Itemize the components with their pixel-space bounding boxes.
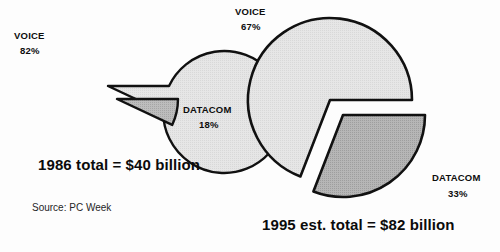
pie-1995-voice-label: VOICE — [235, 6, 266, 17]
pie-1995-caption: 1995 est. total = $82 billion — [262, 216, 455, 233]
figure-canvas: VOICE 82% DATACOM 18% 1986 total = $40 b… — [0, 0, 500, 252]
pie-1986-voice-value: 82% — [20, 45, 40, 56]
pie-1986-slice-datacom — [117, 99, 178, 125]
pie-1986-datacom-value: 18% — [199, 119, 219, 130]
pie-1986-caption: 1986 total = $40 billion — [38, 156, 200, 173]
pie-1995-group — [248, 18, 425, 197]
pie-1986-datacom-label: DATACOM — [183, 104, 232, 115]
pie-1995-slice-datacom — [313, 115, 425, 197]
pie-1995-voice-value: 67% — [241, 21, 261, 32]
pie-1995-datacom-value: 33% — [448, 188, 468, 199]
pie-1995-datacom-label: DATACOM — [432, 172, 481, 183]
pie-1986-voice-label: VOICE — [14, 30, 45, 41]
source-note: Source: PC Week — [32, 202, 111, 213]
pie-charts-graphic — [0, 0, 500, 252]
